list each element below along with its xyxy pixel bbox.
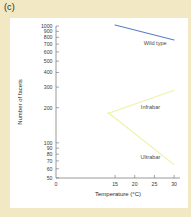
x-tick-label: 30 [171,181,177,187]
y-tick-label: 1000 [41,23,53,29]
y-tick-label: 800 [44,34,53,40]
y-tick-label: 900 [44,28,53,34]
series-line-infrabar [108,90,174,113]
y-tick-label: 90 [47,145,53,151]
y-tick-label: 600 [44,49,53,55]
series-line-wild-type [115,25,174,40]
line-chart: 5060708090100200300400500600700800900100… [10,18,188,208]
panel-label: (c) [4,2,15,12]
y-tick-label: 200 [44,105,53,111]
figure-panel: (c) 506070809010020030040050060070080090… [0,0,191,217]
y-tick-label: 50 [47,175,53,181]
x-axis-title: Temperature (°C) [95,191,141,197]
x-tick-label: 25 [152,181,158,187]
y-tick-label: 100 [44,140,53,146]
x-tick-label: 0 [55,181,58,187]
x-tick-label: 15 [112,181,118,187]
y-tick-label: 70 [47,158,53,164]
y-tick-label: 300 [44,84,53,90]
series-label-ultrabar: Ultrabar [141,154,161,160]
series-label-wild-type: Wild type [144,40,167,46]
series-label-infrabar: Infrabar [141,104,160,110]
y-tick-label: 700 [44,41,53,47]
y-tick-label: 400 [44,69,53,75]
x-tick-label: 20 [132,181,138,187]
chart-plot-area: 5060708090100200300400500600700800900100… [10,18,188,208]
y-axis-title: Number of facets [17,79,23,125]
y-tick-label: 60 [47,166,53,172]
plot-card: 5060708090100200300400500600700800900100… [10,18,188,208]
y-tick-label: 80 [47,151,53,157]
y-tick-label: 500 [44,58,53,64]
